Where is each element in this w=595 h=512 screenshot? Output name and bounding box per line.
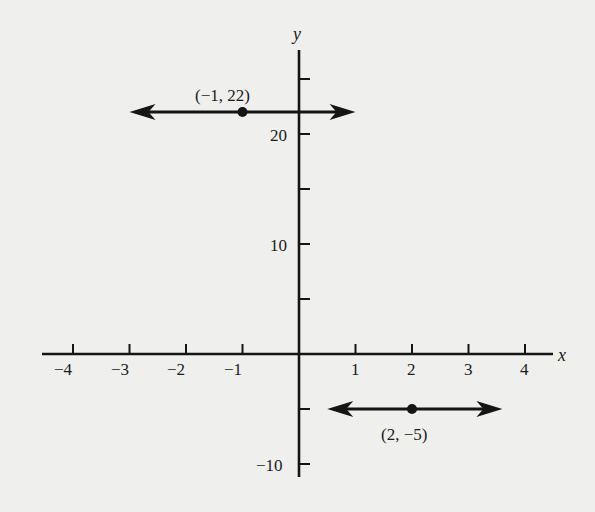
x-tick-label: 1 (351, 360, 360, 380)
x-tick-label: −4 (54, 360, 72, 380)
x-tick-label: −1 (224, 360, 242, 380)
x-tick-label: 4 (520, 360, 529, 380)
y-axis-label: y (293, 24, 301, 45)
y-ticks (299, 79, 310, 464)
y-tick-label: −10 (256, 456, 283, 476)
y-tick-label: 20 (270, 126, 287, 146)
x-tick-label: 2 (407, 360, 416, 380)
data-point (238, 107, 248, 117)
x-tick-label: −3 (111, 360, 129, 380)
data-series (130, 104, 503, 417)
point-label-1: (−1, 22) (195, 86, 250, 106)
coordinate-plane (0, 0, 595, 512)
x-tick-label: −2 (167, 360, 185, 380)
y-tick-label: 10 (270, 236, 287, 256)
point-label-2: (2, −5) (381, 425, 427, 445)
x-axis-label: x (558, 345, 566, 366)
data-point (407, 404, 417, 414)
x-tick-label: 3 (464, 360, 473, 380)
